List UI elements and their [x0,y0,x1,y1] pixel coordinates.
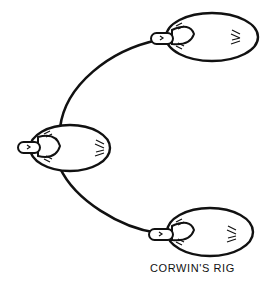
float-bottom-right [149,208,253,256]
float-top-right [151,13,258,61]
float-middle-left [18,125,110,171]
diagram-caption: CORWIN'S RIG [150,262,235,274]
rig-diagram [0,0,261,292]
